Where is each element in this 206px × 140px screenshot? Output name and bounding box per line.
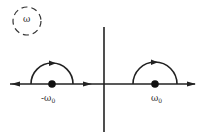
pole-label-right-sub: 0 (158, 97, 162, 104)
arrow-icon (83, 82, 92, 87)
pole-label-right: ω0 (151, 94, 162, 104)
pole-right (151, 80, 159, 88)
pole-left (48, 80, 56, 88)
arrow-icon (151, 60, 158, 66)
arrow-icon (187, 82, 196, 87)
pole-label-left: -ω0 (41, 94, 55, 104)
pole-label-left-main: -ω (41, 93, 51, 103)
plane-label: ω (23, 15, 30, 24)
pole-label-left-sub: 0 (51, 97, 55, 104)
arrow-icon (11, 82, 20, 87)
contour-diagram (0, 0, 206, 140)
arrow-icon (49, 61, 56, 67)
